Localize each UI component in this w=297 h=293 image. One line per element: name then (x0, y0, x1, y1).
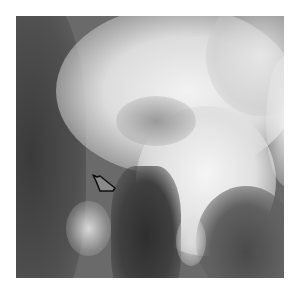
arrow-marker-icon (88, 172, 120, 198)
xray-image (16, 16, 284, 278)
mid-gray-oval (116, 96, 196, 146)
dark-region-center (111, 166, 181, 278)
bright-spot-lower-left (66, 201, 111, 256)
bright-stem (176, 216, 206, 266)
